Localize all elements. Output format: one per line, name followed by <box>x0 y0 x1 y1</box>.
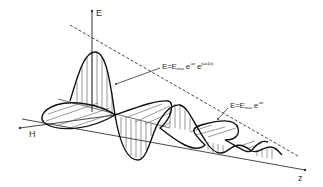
wave-equation-pointer <box>116 68 160 84</box>
attenuation-envelope <box>70 25 298 156</box>
wave-equation: E=Emax e-αz ej(ωt-βz) <box>162 62 213 71</box>
e-axis-label: E <box>96 9 102 18</box>
envelope-equation-pointer <box>218 108 228 119</box>
em-wave-diagram <box>0 0 323 187</box>
h-axis-label: H <box>29 130 36 139</box>
envelope-equation: E=Emax e-αz <box>230 101 263 110</box>
z-axis-label: z <box>298 174 303 183</box>
